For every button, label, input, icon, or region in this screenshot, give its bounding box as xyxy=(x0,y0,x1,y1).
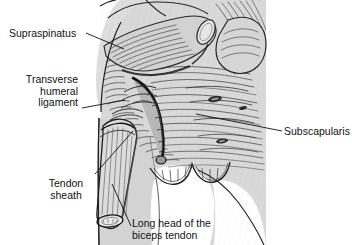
label-subscapularis-line-1: Subscapularis xyxy=(284,126,350,138)
label-supraspinatus: Supraspinatus xyxy=(9,28,76,40)
label-tendon-sheath-line-1: Tendon xyxy=(38,178,94,190)
label-tendon-sheath: Tendon sheath xyxy=(38,178,94,201)
label-tendon-sheath-line-2: sheath xyxy=(38,190,94,202)
label-transverse-humeral-ligament-line-3: ligament xyxy=(0,97,78,109)
label-long-head-biceps-tendon-line-2: biceps tendon xyxy=(132,230,211,242)
label-supraspinatus-line-1: Supraspinatus xyxy=(9,28,76,40)
label-transverse-humeral-ligament-line-1: Transverse xyxy=(0,74,78,86)
label-subscapularis: Subscapularis xyxy=(284,126,350,138)
label-long-head-biceps-tendon-line-1: Long head of the xyxy=(132,218,211,230)
anatomical-figure: Supraspinatus Transverse humeral ligamen… xyxy=(0,0,352,245)
label-long-head-biceps-tendon: Long head of the biceps tendon xyxy=(132,218,211,241)
label-transverse-humeral-ligament: Transverse humeral ligament xyxy=(0,74,78,109)
